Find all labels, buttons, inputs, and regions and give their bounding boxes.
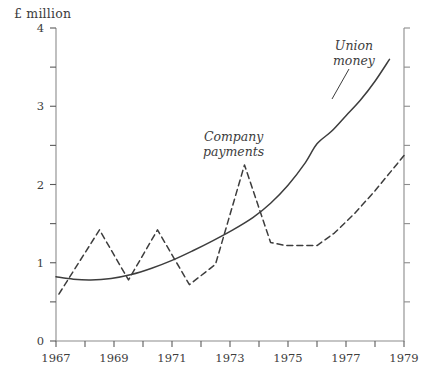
x-tick-label: 1969 bbox=[99, 351, 128, 365]
x-axis-ticks bbox=[56, 341, 404, 347]
x-tick-label: 1975 bbox=[273, 351, 302, 365]
annotation-leader-line bbox=[332, 69, 349, 99]
union-money-label-line2: money bbox=[333, 53, 375, 68]
series-line-union-money bbox=[56, 59, 390, 280]
union-money-leader-line bbox=[332, 69, 349, 99]
y-tick-label: 0 bbox=[37, 334, 44, 348]
union-money-label-line1: Union bbox=[335, 38, 373, 53]
y-tick-label: 4 bbox=[37, 21, 44, 35]
y-tick-label: 1 bbox=[37, 256, 44, 270]
series-line-company-payments bbox=[59, 156, 404, 294]
axes bbox=[56, 28, 404, 341]
axis-lines bbox=[56, 28, 404, 341]
series-label-union-money: Union money bbox=[333, 38, 375, 68]
x-tick-label: 1977 bbox=[331, 351, 360, 365]
data-series bbox=[56, 59, 404, 294]
x-tick-label: 1971 bbox=[157, 351, 186, 365]
x-tick-label: 1973 bbox=[215, 351, 244, 365]
x-axis-tick-labels: 1967196919711973197519771979 bbox=[41, 351, 418, 365]
chart-figure: £ million 01234 196719691971197319751977… bbox=[0, 0, 439, 371]
y-tick-label: 2 bbox=[37, 178, 44, 192]
x-tick-label: 1979 bbox=[389, 351, 418, 365]
y-tick-label: 3 bbox=[37, 99, 44, 113]
y-axis-ticks bbox=[50, 28, 410, 341]
y-axis-tick-labels: 01234 bbox=[37, 21, 44, 348]
series-label-company-payments: Company payments bbox=[203, 129, 264, 159]
company-payments-label-line2: payments bbox=[203, 144, 264, 159]
company-payments-label-line1: Company bbox=[204, 129, 264, 144]
x-tick-label: 1967 bbox=[41, 351, 70, 365]
